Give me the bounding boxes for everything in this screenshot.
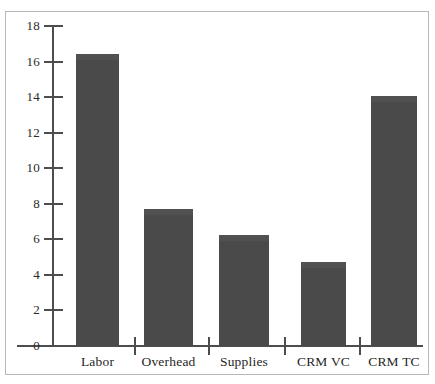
y-tick-label-2: 2 [33, 303, 40, 316]
y-tick-10 [44, 167, 63, 169]
x-label-crm-tc: CRM TC [334, 355, 435, 370]
x-separator-3 [284, 337, 286, 355]
y-tick-0 [44, 345, 63, 347]
y-tick-4 [44, 274, 63, 276]
y-tick-label-14: 14 [27, 90, 40, 103]
bar-overhead [144, 209, 193, 346]
y-tick-label-4: 4 [33, 268, 40, 281]
y-tick-label-12: 12 [27, 126, 40, 139]
y-tick-label-8: 8 [33, 197, 40, 210]
y-tick-6 [44, 238, 63, 240]
bar-supplies [219, 235, 269, 346]
y-tick-label-6: 6 [33, 232, 40, 245]
y-tick-16 [44, 61, 63, 63]
bar-crm-vc [301, 262, 346, 346]
x-separator-4 [359, 337, 361, 355]
bar-labor [76, 54, 119, 346]
y-tick-label-18: 18 [27, 19, 40, 32]
y-tick-12 [44, 132, 63, 134]
y-tick-label-16: 16 [27, 55, 40, 68]
y-tick-2 [44, 309, 63, 311]
y-axis-line [52, 25, 54, 347]
y-tick-8 [44, 203, 63, 205]
bar-crm-tc [371, 96, 417, 346]
y-tick-18 [44, 25, 63, 27]
plot-area: 024681012141618 LaborOverheadSuppliesCRM… [6, 12, 428, 374]
y-tick-14 [44, 96, 63, 98]
y-tick-label-10: 10 [27, 161, 40, 174]
chart-frame: 024681012141618 LaborOverheadSuppliesCRM… [5, 11, 429, 375]
x-separator-2 [208, 337, 210, 355]
y-tick-label-0: 0 [33, 339, 40, 352]
x-separator-1 [134, 337, 136, 355]
